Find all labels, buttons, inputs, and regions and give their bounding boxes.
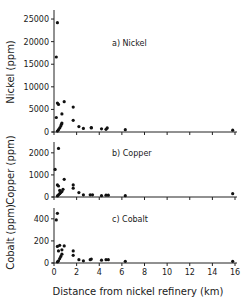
y-tick-label: 0 [44,128,49,137]
data-point [57,184,60,187]
y-axis-label: Nickel (ppm) [5,40,16,104]
data-point [100,259,103,262]
x-axis-label: Distance from nickel refinery (km) [53,286,224,297]
data-point [82,193,85,196]
data-point [60,121,63,124]
data-point [72,183,75,186]
data-point [107,258,110,261]
panel-c: 02004000246810121416Cobalt (ppm)c) Cobal… [5,204,240,277]
data-point [72,254,75,257]
panel-title: b) Copper [112,149,152,158]
data-point [231,129,234,132]
x-tick-label: 2 [74,268,79,277]
y-tick-label: 20000 [24,38,49,47]
data-point [82,127,85,130]
data-point [77,125,80,128]
x-tick-label: 6 [119,268,124,277]
data-point [54,168,57,171]
y-axis-label: Copper (ppm) [5,135,16,205]
data-point [56,212,59,215]
data-point [124,260,127,263]
y-axis-label: Cobalt (ppm) [5,204,16,270]
panel-title: a) Nickel [112,39,147,48]
data-point [77,258,80,261]
data-point [231,192,234,195]
data-point [124,194,127,197]
data-point [90,258,93,261]
data-point [57,103,60,106]
data-point [55,116,58,119]
y-tick-label: 0 [44,259,49,268]
data-point [100,127,103,130]
x-tick-label: 10 [162,268,172,277]
data-point [60,248,63,251]
panel-a: 0500010000150002000025000Nickel (ppm)a) … [5,10,237,137]
data-point [72,119,75,122]
data-point [58,244,61,247]
data-point [56,21,59,24]
x-tick-label: 16 [230,268,240,277]
data-point [106,126,109,129]
y-tick-label: 1000 [29,171,49,180]
data-point [72,187,75,190]
y-tick-label: 0 [44,193,49,202]
data-point [63,244,66,247]
y-tick-label: 200 [34,237,49,246]
data-point [231,260,234,263]
data-point [55,55,58,58]
y-tick-label: 15000 [24,60,49,69]
figure: 0500010000150002000025000Nickel (ppm)a) … [0,0,247,300]
data-point [57,249,60,252]
data-point [55,218,58,221]
data-point [90,126,93,129]
data-point [63,178,66,181]
y-tick-label: 400 [34,215,49,224]
x-tick-label: 8 [142,268,147,277]
data-point [60,253,63,256]
data-point [77,191,80,194]
y-tick-label: 25000 [24,15,49,24]
data-point [100,194,103,197]
data-point [60,112,63,115]
x-tick-label: 0 [51,268,56,277]
y-tick-label: 5000 [29,105,49,114]
x-tick-label: 14 [207,268,217,277]
data-point [82,259,85,262]
y-tick-label: 10000 [24,83,49,92]
y-tick-label: 2000 [29,149,49,158]
data-point [63,100,66,103]
panel-title: c) Cobalt [112,215,148,224]
data-point [72,106,75,109]
x-tick-label: 12 [185,268,195,277]
data-point [72,249,75,252]
data-point [91,193,94,196]
data-point [124,128,127,131]
data-point [57,147,60,150]
panel-b: 010002000Copper (ppm)b) Copper [5,135,237,205]
data-point [107,194,110,197]
x-tick-label: 4 [97,268,102,277]
data-point [60,190,63,193]
